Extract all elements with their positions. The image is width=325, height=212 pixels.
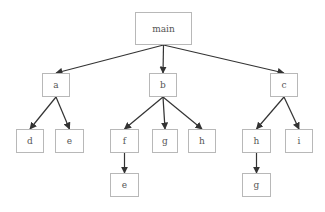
edge-b-to-b_h xyxy=(163,97,202,129)
node-a-e: e xyxy=(55,129,84,153)
edge-main-to-c xyxy=(164,45,285,73)
node-c: c xyxy=(270,73,298,97)
node-h-g: g xyxy=(242,173,271,197)
node-c-i: i xyxy=(285,129,313,153)
edge-a-to-a_d xyxy=(30,97,56,129)
node-main: main xyxy=(135,12,192,45)
edge-b-to-b_f xyxy=(125,97,164,129)
edge-c-to-c_i xyxy=(284,97,299,129)
node-c-h: h xyxy=(242,129,271,153)
edge-a-to-a_e xyxy=(56,97,70,129)
node-a-d: d xyxy=(16,129,44,153)
edge-b-to-b_g xyxy=(163,97,165,129)
node-b-g: g xyxy=(152,129,178,153)
call-tree-diagram: mainabcdefghehig xyxy=(0,0,325,212)
node-b-f: f xyxy=(110,129,139,153)
node-b-h: h xyxy=(188,129,216,153)
node-b: b xyxy=(149,73,177,97)
edge-main-to-a xyxy=(56,45,164,73)
edge-c-to-c_h xyxy=(257,97,285,129)
edge-main-to-b xyxy=(163,45,164,73)
node-a: a xyxy=(42,73,70,97)
node-f-e: e xyxy=(110,173,139,197)
